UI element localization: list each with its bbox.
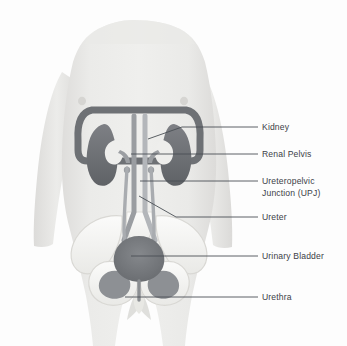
label-renal-pelvis: Renal Pelvis	[262, 149, 312, 161]
shoulder-shading	[84, 20, 195, 44]
urinary-bladder	[114, 236, 165, 282]
label-ureter: Ureter	[262, 212, 287, 224]
left-nipple	[78, 97, 86, 106]
right-nipple	[180, 97, 188, 106]
label-urethra: Urethra	[262, 292, 292, 304]
label-upj: Ureteropelvic Junction (UPJ)	[262, 176, 320, 199]
label-urinary-bladder: Urinary Bladder	[262, 251, 324, 263]
label-kidney: Kidney	[262, 122, 289, 134]
anatomy-illustration	[0, 0, 347, 346]
